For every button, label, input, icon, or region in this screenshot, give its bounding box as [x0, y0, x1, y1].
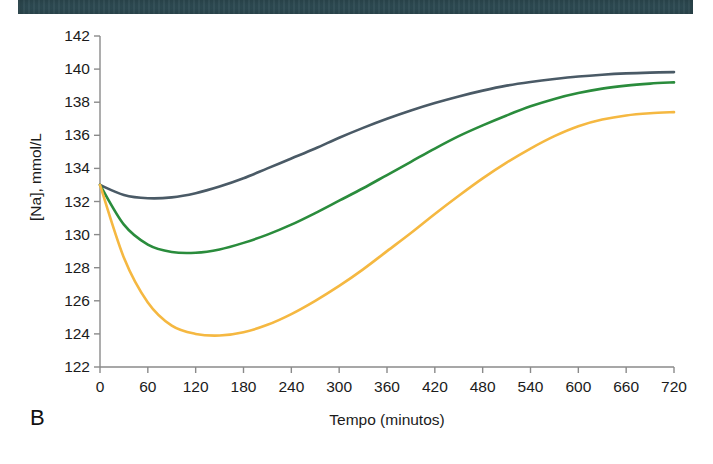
x-tick-label: 540 — [508, 378, 554, 396]
y-axis-title: [Na], mmol/L — [27, 77, 45, 277]
x-tick-label: 300 — [316, 378, 362, 396]
y-tick-label: 138 — [50, 93, 90, 111]
figure-panel-b: 122124126128130132134136138140142 060120… — [0, 0, 713, 464]
clipped-caption-text — [10, 452, 703, 464]
x-tick-label: 720 — [651, 378, 697, 396]
x-tick-label: 180 — [221, 378, 267, 396]
x-tick-label: 0 — [77, 378, 123, 396]
y-tick-label: 134 — [50, 159, 90, 177]
y-tick-label: 126 — [50, 292, 90, 310]
x-tick-label: 360 — [364, 378, 410, 396]
series-line-green — [100, 82, 674, 253]
y-tick-label: 122 — [50, 358, 90, 376]
x-tick-label: 660 — [603, 378, 649, 396]
x-tick-label: 600 — [555, 378, 601, 396]
y-tick-label: 124 — [50, 325, 90, 343]
y-tick-label: 130 — [50, 226, 90, 244]
y-tick-label: 128 — [50, 259, 90, 277]
chart-axes — [94, 36, 674, 373]
y-tick-label: 140 — [50, 60, 90, 78]
series-line-orange — [100, 112, 674, 336]
x-tick-label: 60 — [125, 378, 171, 396]
x-tick-label: 240 — [268, 378, 314, 396]
x-axis-title: Tempo (minutos) — [100, 411, 674, 429]
y-tick-label: 132 — [50, 193, 90, 211]
x-tick-label: 120 — [173, 378, 219, 396]
panel-label: B — [30, 405, 45, 431]
chart-series — [100, 72, 674, 336]
y-tick-label: 136 — [50, 126, 90, 144]
x-tick-label: 480 — [460, 378, 506, 396]
y-tick-label: 142 — [50, 27, 90, 45]
x-tick-label: 420 — [412, 378, 458, 396]
